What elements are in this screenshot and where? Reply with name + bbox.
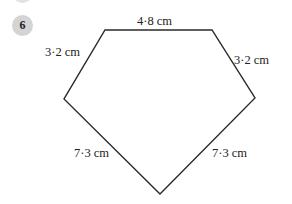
side-label-upper-left: 3·2 cm <box>45 45 80 60</box>
side-label-lower-right: 7·3 cm <box>212 146 247 161</box>
pentagon-diagram <box>0 0 292 204</box>
pentagon-outline <box>64 30 255 194</box>
side-label-upper-right: 3·2 cm <box>234 53 269 68</box>
side-label-top: 4·8 cm <box>137 14 172 29</box>
side-label-lower-left: 7·3 cm <box>74 146 109 161</box>
